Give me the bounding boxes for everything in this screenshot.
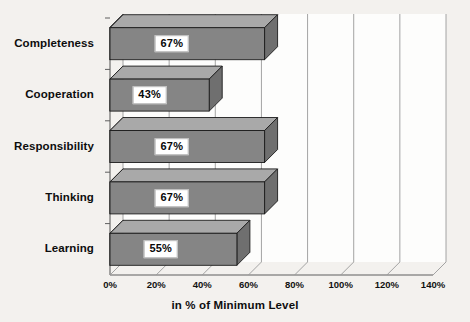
- category-label-thinking: Thinking: [45, 192, 94, 204]
- category-label-completeness: Completeness: [14, 38, 94, 50]
- x-axis-title: in % of Minimum Level: [0, 300, 470, 312]
- x-tick-label-20: 20%: [147, 280, 166, 290]
- category-label-learning: Learning: [45, 243, 94, 255]
- x-tick-label-100: 100%: [329, 280, 353, 290]
- x-tick-label-140: 140%: [421, 280, 445, 290]
- x-tick-label-120: 120%: [375, 280, 399, 290]
- value-label-responsibility: 67%: [155, 138, 190, 156]
- value-label-thinking: 67%: [155, 189, 190, 207]
- bar-completeness: [110, 15, 278, 60]
- x-tick-label-40: 40%: [193, 280, 212, 290]
- category-label-responsibility: Responsibility: [14, 141, 94, 153]
- value-label-learning: 55%: [143, 240, 178, 258]
- category-label-cooperation: Cooperation: [25, 89, 94, 101]
- value-label-completeness: 67%: [155, 35, 190, 53]
- x-tick-label-60: 60%: [239, 280, 258, 290]
- bar-chart: LearningThinkingResponsibilityCooperatio…: [0, 0, 470, 322]
- x-tick-label-80: 80%: [285, 280, 304, 290]
- bar-thinking: [110, 169, 278, 214]
- bar-learning: [110, 220, 250, 265]
- value-label-cooperation: 43%: [132, 86, 167, 104]
- x-tick-label-0: 0%: [103, 280, 117, 290]
- bar-responsibility: [110, 118, 278, 163]
